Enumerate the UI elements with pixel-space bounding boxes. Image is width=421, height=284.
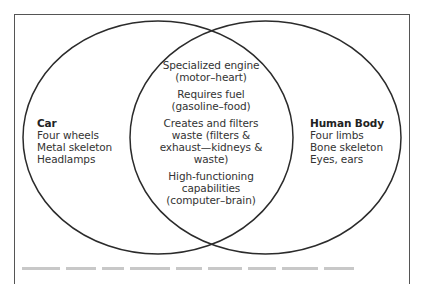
human-body-item: Bone skeleton bbox=[310, 141, 384, 153]
cropped-caption bbox=[22, 265, 402, 270]
shared-trait-engine: Specialized engine (motor–heart) bbox=[150, 59, 272, 83]
car-title: Car bbox=[37, 117, 112, 129]
human-body-set-label: Human Body Four limbs Bone skeleton Eyes… bbox=[310, 117, 384, 165]
shared-trait-line: exhaust—kidneys & bbox=[150, 141, 272, 153]
human-body-title: Human Body bbox=[310, 117, 384, 129]
shared-trait-line: Creates and filters bbox=[150, 117, 272, 129]
shared-trait-line: waste (filters & bbox=[150, 129, 272, 141]
shared-trait-line: (motor–heart) bbox=[150, 71, 272, 83]
shared-trait-waste: Creates and filters waste (filters & exh… bbox=[150, 117, 272, 165]
car-item: Four wheels bbox=[37, 129, 112, 141]
shared-trait-fuel: Requires fuel (gasoline–food) bbox=[150, 88, 272, 112]
shared-trait-line: Specialized engine bbox=[150, 59, 272, 71]
intersection-label: Specialized engine (motor–heart) Require… bbox=[150, 59, 272, 211]
shared-trait-capabilities: High-functioning capabilities (computer–… bbox=[150, 170, 272, 206]
shared-trait-line: High-functioning bbox=[150, 170, 272, 182]
shared-trait-line: waste) bbox=[150, 153, 272, 165]
car-item: Headlamps bbox=[37, 153, 112, 165]
shared-trait-line: (computer–brain) bbox=[150, 194, 272, 206]
shared-trait-line: capabilities bbox=[150, 182, 272, 194]
shared-trait-line: Requires fuel bbox=[150, 88, 272, 100]
shared-trait-line: (gasoline–food) bbox=[150, 100, 272, 112]
car-set-label: Car Four wheels Metal skeleton Headlamps bbox=[37, 117, 112, 165]
car-item: Metal skeleton bbox=[37, 141, 112, 153]
human-body-item: Four limbs bbox=[310, 129, 384, 141]
human-body-item: Eyes, ears bbox=[310, 153, 384, 165]
